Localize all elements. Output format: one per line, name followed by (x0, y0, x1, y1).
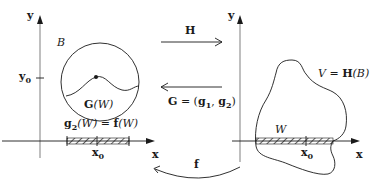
base-point (94, 75, 98, 79)
f-map-label: f (194, 159, 199, 170)
left-x-axis-label: x (152, 149, 159, 160)
y0-tick-label: y0 (19, 71, 31, 84)
H-map-label: H (185, 25, 195, 36)
left-panel (2, 15, 155, 158)
g2-equals-f-label: g2(W) = f(W) (64, 118, 138, 131)
left-y-axis-label: y (27, 10, 33, 21)
left-x0-label: x0 (92, 147, 104, 160)
G-of-W-curve (66, 77, 139, 96)
W-hatched-segment (256, 138, 333, 144)
left-y-axis-arrowhead (37, 15, 43, 24)
right-x0-label: x0 (301, 147, 313, 160)
right-panel (232, 15, 360, 174)
W-label: W (275, 124, 286, 135)
G-map-label: G = (g1, g2) (168, 96, 236, 109)
g2-W-hatched-segment (67, 138, 129, 144)
G-of-W-label: G(W) (84, 99, 113, 110)
right-y-axis-label: y (228, 10, 234, 21)
right-y-axis-arrowhead (237, 15, 243, 24)
right-x-axis-label: x (356, 149, 363, 160)
V-equals-H-of-B-label: V = H(B) (318, 68, 369, 79)
right-x-axis-arrowhead (351, 138, 360, 144)
left-x-axis-arrowhead (146, 138, 155, 144)
region-B-label: B (57, 37, 65, 48)
